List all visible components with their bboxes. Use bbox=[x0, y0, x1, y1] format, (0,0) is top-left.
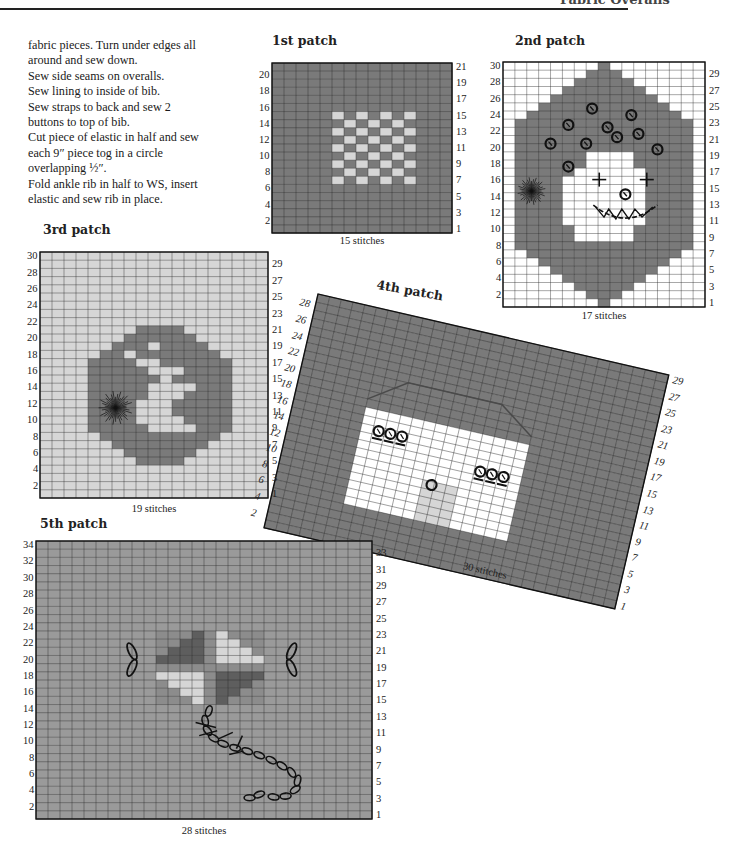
row-label-left: 18 bbox=[259, 85, 270, 96]
row-label-left: 24 bbox=[291, 329, 304, 342]
row-label-right: 5 bbox=[456, 191, 461, 202]
row-label-right: 21 bbox=[376, 645, 387, 656]
row-label-left: 22 bbox=[490, 125, 501, 136]
row-label-right: 19 bbox=[709, 150, 720, 161]
row-label-left: 22 bbox=[23, 637, 34, 648]
row-label-right: 3 bbox=[709, 281, 714, 292]
row-label-left: 14 bbox=[27, 381, 38, 392]
row-label-right: 7 bbox=[272, 439, 277, 450]
row-label-right: 1 bbox=[376, 809, 381, 820]
row-label-left: 6 bbox=[496, 256, 501, 267]
row-label-right: 7 bbox=[376, 760, 381, 771]
row-label-right: 9 bbox=[634, 536, 642, 548]
row-label-right: 29 bbox=[376, 580, 387, 591]
row-label-right: 21 bbox=[709, 134, 720, 145]
row-label-right: 5 bbox=[627, 568, 635, 580]
row-label-left: 12 bbox=[23, 719, 34, 730]
row-label-right: 13 bbox=[642, 503, 655, 516]
row-label-right: 13 bbox=[272, 390, 283, 401]
patch1-chart bbox=[272, 63, 452, 233]
row-label-right: 25 bbox=[664, 407, 677, 420]
row-label-right: 5 bbox=[709, 264, 714, 275]
row-label-right: 15 bbox=[646, 487, 659, 500]
instruction-line: Sew lining to inside of bib. bbox=[28, 84, 248, 99]
patch3-chart bbox=[40, 252, 268, 498]
row-label-right: 11 bbox=[709, 215, 719, 226]
row-label-left: 4 bbox=[254, 490, 262, 502]
row-label-right: 5 bbox=[272, 455, 277, 466]
row-label-left: 2 bbox=[265, 215, 270, 226]
row-label-left: 8 bbox=[496, 240, 501, 251]
row-label-left: 12 bbox=[27, 398, 38, 409]
row-label-left: 18 bbox=[490, 158, 501, 169]
row-label-right: 3 bbox=[623, 584, 631, 596]
patch3-caption: 19 stitches bbox=[40, 503, 268, 514]
row-label-left: 20 bbox=[490, 142, 501, 153]
row-label-left: 20 bbox=[284, 361, 297, 374]
row-label-right: 3 bbox=[272, 472, 277, 483]
row-label-left: 10 bbox=[27, 414, 38, 425]
row-label-right: 13 bbox=[709, 199, 720, 210]
row-label-left: 8 bbox=[33, 431, 38, 442]
row-label-left: 14 bbox=[490, 191, 501, 202]
row-label-right: 23 bbox=[272, 308, 283, 319]
row-label-right: 21 bbox=[456, 61, 467, 72]
row-label-right: 33 bbox=[376, 547, 387, 558]
row-label-right: 29 bbox=[709, 68, 720, 79]
row-label-left: 2 bbox=[29, 801, 34, 812]
instruction-line: fabric pieces. Turn under edges all bbox=[28, 38, 248, 53]
row-label-left: 14 bbox=[259, 118, 270, 129]
row-label-right: 1 bbox=[456, 223, 461, 234]
row-label-right: 25 bbox=[709, 101, 720, 112]
row-label-left: 26 bbox=[27, 283, 38, 294]
row-label-right: 25 bbox=[376, 613, 387, 624]
row-label-right: 17 bbox=[376, 678, 387, 689]
row-label-right: 7 bbox=[709, 248, 714, 259]
row-label-left: 6 bbox=[33, 447, 38, 458]
instruction-line: buttons to top of bib. bbox=[28, 115, 248, 130]
row-label-right: 7 bbox=[631, 552, 639, 564]
row-label-left: 20 bbox=[259, 69, 270, 80]
row-label-left: 2 bbox=[33, 480, 38, 491]
row-label-right: 5 bbox=[376, 776, 381, 787]
instruction-line: Sew side seams on overalls. bbox=[28, 69, 248, 84]
row-label-left: 34 bbox=[23, 539, 34, 550]
row-label-right: 1 bbox=[272, 488, 277, 499]
row-label-left: 2 bbox=[250, 506, 258, 518]
row-label-left: 8 bbox=[29, 752, 34, 763]
row-label-right: 1 bbox=[619, 600, 627, 612]
row-label-left: 14 bbox=[23, 703, 34, 714]
patch2-caption: 17 stitches bbox=[503, 310, 705, 321]
patch4-title: 4th patch bbox=[375, 277, 444, 303]
row-label-left: 30 bbox=[27, 250, 38, 261]
row-label-right: 15 bbox=[456, 110, 467, 121]
row-label-left: 6 bbox=[29, 768, 34, 779]
row-label-left: 18 bbox=[27, 349, 38, 360]
row-label-left: 16 bbox=[259, 102, 270, 113]
row-label-left: 26 bbox=[23, 605, 34, 616]
row-label-left: 22 bbox=[27, 316, 38, 327]
row-label-right: 9 bbox=[456, 158, 461, 169]
row-label-right: 17 bbox=[456, 93, 467, 104]
patch2-chart bbox=[503, 62, 705, 307]
row-label-right: 27 bbox=[272, 275, 283, 286]
row-label-right: 15 bbox=[376, 694, 387, 705]
row-label-right: 9 bbox=[376, 744, 381, 755]
row-label-left: 30 bbox=[490, 60, 501, 71]
row-label-right: 27 bbox=[709, 85, 720, 96]
row-label-left: 4 bbox=[33, 463, 38, 474]
row-label-right: 13 bbox=[376, 711, 387, 722]
row-label-left: 28 bbox=[490, 76, 501, 87]
instruction-line: elastic and sew rib in place. bbox=[28, 192, 248, 207]
row-label-right: 17 bbox=[272, 357, 283, 368]
row-label-left: 16 bbox=[23, 686, 34, 697]
row-label-right: 29 bbox=[272, 258, 283, 269]
row-label-right: 9 bbox=[272, 422, 277, 433]
row-label-left: 6 bbox=[265, 182, 270, 193]
row-label-left: 32 bbox=[23, 555, 34, 566]
patch5-chart bbox=[36, 541, 372, 819]
row-label-right: 31 bbox=[376, 564, 387, 575]
row-label-right: 13 bbox=[456, 126, 467, 137]
instruction-line: around and sew down. bbox=[28, 53, 248, 68]
row-label-left: 4 bbox=[265, 199, 270, 210]
